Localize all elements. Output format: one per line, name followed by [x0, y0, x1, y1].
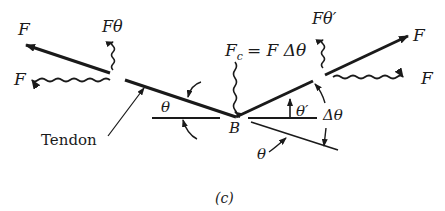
label-theta-bottom: θ — [257, 145, 266, 163]
label-f-theta-prime: Fθ′ — [311, 9, 337, 28]
label-fc-sub: c — [237, 50, 243, 63]
label-f-left-top: F — [17, 19, 31, 39]
label-f-right-bottom: F — [420, 68, 434, 88]
tendon-force-diagram: F F Fθ Fc= F Δθ Fθ′ F F Tendon θ B θ′ Δθ… — [0, 0, 445, 211]
angle-arrow-delta-theta-upper — [315, 84, 325, 103]
label-theta-left: θ — [161, 98, 170, 116]
wavy-force-arrow-ftheta-prime — [322, 40, 325, 68]
wavy-force-arrow-fc — [234, 62, 237, 113]
label-point-b: B — [228, 119, 240, 137]
label-f-left-bottom: F — [13, 69, 27, 89]
wavy-force-arrow-right — [333, 76, 403, 79]
force-arrow-right — [325, 36, 408, 75]
label-theta-prime: θ′ — [296, 102, 309, 120]
label-fc: Fc= F Δθ — [224, 40, 306, 63]
angle-arrow-delta-theta-lower — [324, 128, 326, 146]
tendon-leader-line — [108, 88, 144, 136]
tendon-left-segment — [125, 80, 236, 117]
angle-arrow-theta-left-lower — [183, 120, 197, 139]
force-arrow-left — [26, 45, 110, 73]
wavy-force-arrow-ftheta — [112, 42, 115, 70]
label-f-right-top: F — [412, 25, 426, 45]
wavy-force-arrow-left — [32, 79, 110, 82]
angle-arrow-theta-bottom — [269, 138, 286, 152]
label-fc-rhs: = F Δθ — [247, 40, 306, 60]
angle-arrow-theta-left-upper — [188, 82, 201, 97]
figure-caption: (c) — [215, 190, 234, 206]
label-tendon: Tendon — [41, 131, 97, 149]
label-f-theta: Fθ — [101, 17, 123, 36]
label-delta-theta: Δθ — [322, 106, 343, 124]
